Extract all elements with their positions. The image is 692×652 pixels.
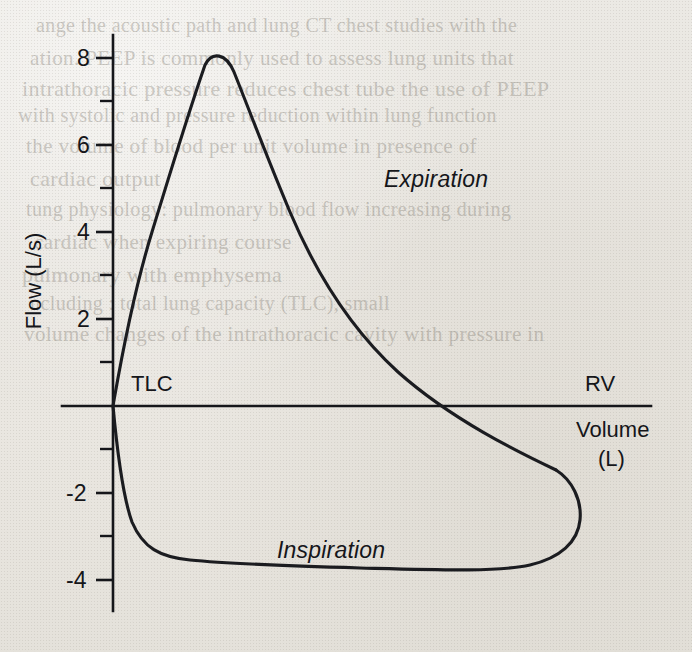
y-tick-label-8: 8 [77, 45, 90, 72]
y-tick-label-minus-2: -2 [66, 480, 86, 507]
x-axis-label-line2: (L) [598, 446, 625, 472]
y-tick-label-2: 2 [77, 306, 90, 333]
y-tick-label-4: 4 [77, 219, 90, 246]
y-tick-label-6: 6 [77, 132, 90, 159]
tlc-marker-label: TLC [131, 371, 173, 397]
inspiration-label: Inspiration [277, 537, 385, 564]
rv-marker-label: RV [585, 371, 615, 397]
y-axis-major-ticks [96, 58, 113, 580]
figure-page: ange the acoustic path and lung CT chest… [0, 0, 692, 652]
x-axis-label-line1: Volume [576, 417, 649, 443]
y-axis-label: Flow (L/s) [21, 216, 47, 346]
y-tick-label-minus-4: -4 [66, 567, 86, 594]
expiration-label: Expiration [384, 166, 488, 193]
expiration-curve [113, 56, 556, 470]
